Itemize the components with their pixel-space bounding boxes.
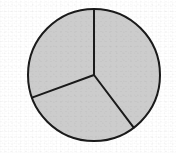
pie-chart-screenshot [0,0,176,153]
pie-chart-figure [0,0,176,153]
pie-chart-svg [0,0,176,153]
